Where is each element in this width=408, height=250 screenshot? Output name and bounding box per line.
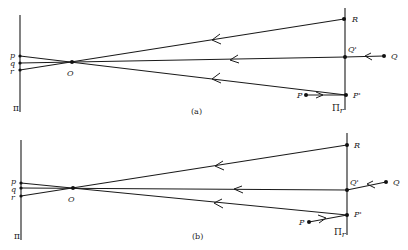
point-P	[304, 93, 308, 97]
label-P: P	[298, 218, 305, 227]
point-r	[18, 68, 21, 71]
point-Pprime	[344, 93, 348, 97]
label-pi: π	[13, 103, 19, 113]
point-Q	[382, 54, 386, 58]
label-r: r	[11, 193, 16, 202]
point-q	[18, 61, 21, 64]
label-Qprime: Q'	[348, 45, 357, 54]
caption-b: (b)	[192, 232, 203, 241]
label-R: R	[351, 15, 358, 24]
arrow-icon	[212, 73, 221, 83]
point-R	[342, 17, 346, 21]
label-r: r	[10, 67, 15, 76]
label-P: P	[296, 91, 303, 100]
point-R	[345, 143, 349, 147]
caption-a: (a)	[191, 107, 202, 116]
pinhole-O	[70, 60, 74, 64]
segment-P-to-Pprime	[309, 215, 347, 222]
label-Pprime: P'	[352, 91, 361, 100]
panel-b: p q r O R Q' Q P' P π Πr (b)	[11, 133, 400, 241]
panel-a: p q r O R Q' Q P' P π Πr (a)	[10, 8, 398, 116]
pinhole-O	[71, 186, 75, 190]
label-Pi-r: Πr	[332, 103, 345, 115]
point-Q	[384, 180, 388, 184]
label-Pprime: P'	[353, 210, 362, 219]
label-O: O	[67, 69, 74, 78]
arrow-icon	[214, 199, 223, 208]
pinhole-projection-diagram: p q r O R Q' Q P' P π Πr (a) p	[0, 0, 408, 250]
label-O: O	[68, 195, 75, 204]
point-Qprime	[343, 55, 347, 59]
point-P	[307, 220, 311, 224]
point-q	[19, 186, 22, 189]
label-Qprime: Q'	[350, 178, 359, 187]
arrow-icon	[318, 215, 326, 223]
point-p	[18, 54, 21, 57]
point-p	[19, 181, 22, 184]
point-Pprime	[345, 213, 349, 217]
label-R: R	[353, 141, 360, 150]
label-Q: Q	[393, 178, 400, 187]
label-Pi-r: Πr	[334, 227, 347, 239]
label-Q: Q	[391, 52, 398, 61]
point-r	[19, 194, 22, 197]
label-pi: π	[14, 231, 20, 241]
point-Qprime	[345, 188, 349, 192]
